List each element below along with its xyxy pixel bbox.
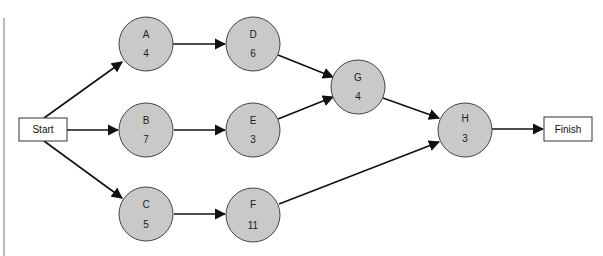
node-c-duration: 5 [143, 219, 149, 230]
edge-start-a [44, 62, 122, 118]
edge-f-h [279, 142, 439, 204]
node-b-duration: 7 [143, 134, 149, 145]
finish-label: Finish [555, 124, 582, 135]
node-f-duration: 11 [248, 220, 259, 231]
edge-e-g [278, 97, 333, 119]
edge-d-g [278, 55, 333, 77]
node-a: A 4 [119, 17, 173, 71]
node-a-duration: 4 [143, 48, 149, 59]
node-b-label: B [143, 115, 150, 126]
start-label: Start [32, 124, 53, 135]
node-e-label: E [250, 115, 257, 126]
node-b: B 7 [119, 103, 173, 157]
node-g: G 4 [331, 60, 385, 114]
edge-start-c [44, 141, 122, 198]
node-c-label: C [142, 199, 149, 210]
network-diagram: Start Finish A 4 B 7 C 5 D 6 E 3 F 11 G … [0, 0, 603, 256]
node-f-label: F [250, 199, 256, 210]
node-a-label: A [143, 29, 150, 40]
node-h-duration: 3 [462, 133, 468, 144]
finish-node: Finish [544, 117, 592, 141]
node-c: C 5 [119, 187, 173, 241]
node-h-label: H [461, 113, 468, 124]
node-e: E 3 [226, 103, 280, 157]
node-e-duration: 3 [250, 134, 256, 145]
edge-g-h [383, 98, 439, 118]
node-g-label: G [354, 72, 362, 83]
node-f: F 11 [226, 188, 280, 242]
node-d: D 6 [226, 17, 280, 71]
node-h: H 3 [438, 103, 492, 157]
node-d-label: D [249, 29, 256, 40]
start-node: Start [19, 118, 67, 141]
node-d-duration: 6 [250, 48, 256, 59]
node-g-duration: 4 [355, 91, 361, 102]
